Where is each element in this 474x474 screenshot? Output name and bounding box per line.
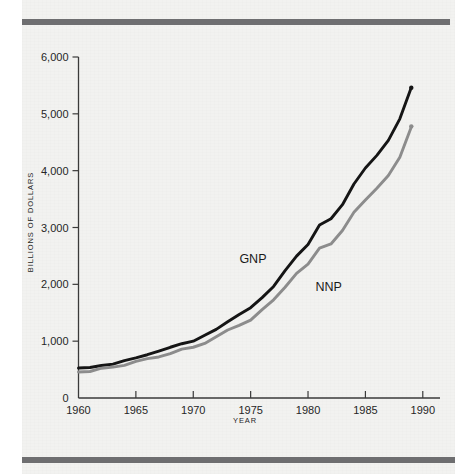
series-label-gnp: GNP bbox=[239, 252, 266, 266]
x-tick-label: 1980 bbox=[296, 404, 320, 416]
x-tick-label: 1970 bbox=[181, 404, 205, 416]
series-endpoint-gnp bbox=[409, 85, 413, 89]
y-tick-label: 2,000 bbox=[41, 278, 69, 290]
line-chart: 01,0002,0003,0004,0005,0006,000 19601965… bbox=[0, 0, 474, 474]
series-group bbox=[79, 85, 414, 371]
x-tick-label: 1965 bbox=[124, 404, 148, 416]
y-tick-label: 5,000 bbox=[41, 108, 69, 120]
series-endpoint-nnp bbox=[409, 124, 413, 128]
x-tick-label: 1985 bbox=[353, 404, 377, 416]
series-line-nnp bbox=[79, 127, 412, 372]
x-tick-label: 1990 bbox=[411, 404, 435, 416]
y-tick-label: 6,000 bbox=[41, 51, 69, 63]
series-line-gnp bbox=[79, 87, 412, 368]
y-axis-title: BILLIONS OF DOLLARS bbox=[26, 172, 35, 272]
x-tick-label: 1975 bbox=[238, 404, 262, 416]
y-tick-label: 0 bbox=[62, 392, 68, 404]
x-tick-label: 1960 bbox=[66, 404, 90, 416]
x-axis: 1960196519701975198019851990 bbox=[66, 391, 440, 416]
x-axis-title: YEAR bbox=[233, 416, 257, 425]
y-tick-label: 3,000 bbox=[41, 222, 69, 234]
y-axis: 01,0002,0003,0004,0005,0006,000 bbox=[41, 51, 79, 404]
y-tick-label: 4,000 bbox=[41, 165, 69, 177]
y-tick-label: 1,000 bbox=[41, 335, 69, 347]
series-annotations: GNPNNP bbox=[239, 252, 341, 294]
series-label-nnp: NNP bbox=[315, 280, 341, 294]
figure-page: 01,0002,0003,0004,0005,0006,000 19601965… bbox=[0, 0, 474, 474]
